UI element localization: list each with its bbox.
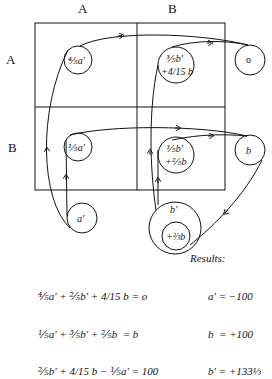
results-title: Results: — [190, 252, 225, 264]
node-ab-label-1: ⅗b′ — [166, 53, 184, 64]
node-a-prime-label: a′ — [77, 213, 85, 224]
node-b-prime-label: b′ — [170, 204, 178, 215]
row-label-a: A — [6, 52, 16, 67]
node-aa-label: ⅘a′ — [68, 55, 86, 66]
equation-2: ⅕a′ + ⅗b′ + ⅖b = b — [38, 328, 158, 341]
column-label-b: B — [168, 1, 177, 16]
equation-1: ⅘a′ + ⅖b′ + 4/15 b = o — [38, 290, 158, 303]
column-label-a: A — [78, 1, 88, 16]
node-ba-label: ⅕a′ — [68, 142, 86, 153]
node-bb-label-1: ⅗b′ — [166, 143, 184, 154]
equation-3: ⅖b′ + 4/15 b − ⅕a′ = 100 — [38, 365, 158, 378]
row-label-b: B — [8, 140, 17, 155]
result-b-prime: b′ = +133⅓ — [208, 365, 261, 378]
node-b-out-label: b — [246, 145, 251, 156]
matrix-grid — [35, 23, 225, 190]
results-block: a′ = −100 b = +100 b′ = +133⅓ — [208, 265, 261, 379]
equations-block: ⅘a′ + ⅖b′ + 4/15 b = o ⅕a′ + ⅗b′ + ⅖b = … — [38, 265, 158, 379]
result-b: b = +100 — [208, 328, 261, 341]
node-bb-label-2: +⅖b — [165, 156, 186, 167]
node-b-prime-inner-label: +⅔b — [166, 231, 185, 242]
node-a-out-label: o — [246, 54, 251, 65]
result-a-prime: a′ = −100 — [208, 290, 261, 303]
node-ab-label-2: +4/15 b — [161, 66, 193, 77]
